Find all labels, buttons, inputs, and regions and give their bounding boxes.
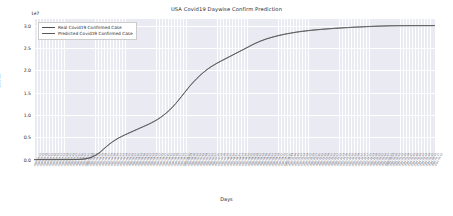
legend-label: Real Covid19 Confirmed Case	[58, 25, 122, 30]
y-tick-label: 1.5	[3, 90, 31, 95]
y-axis-tick-labels: 0.00.51.01.52.02.53.0	[0, 19, 31, 165]
y-tick-label: 2.0	[3, 68, 31, 73]
legend-label: Predicted Covid19 Confirmed Case	[58, 31, 133, 36]
y-tick-label: 3.0	[3, 23, 31, 28]
series-lines	[34, 19, 435, 165]
chart-figure: USA Covid19 Daywise Confirm Prediction 1…	[0, 0, 453, 216]
y-tick-label: 0.0	[3, 157, 31, 162]
chart-title: USA Covid19 Daywise Confirm Prediction	[0, 6, 453, 12]
y-tick-label: 2.5	[3, 46, 31, 51]
legend-color-swatch	[42, 33, 55, 34]
y-axis-offset-label: 1e7	[31, 11, 39, 16]
y-tick-label: 0.5	[3, 135, 31, 140]
chart-legend: Real Covid19 Confirmed CasePredicted Cov…	[38, 22, 137, 41]
series-line	[34, 26, 435, 160]
legend-color-swatch	[42, 27, 55, 28]
y-tick-label: 1.0	[3, 112, 31, 117]
series-line	[34, 26, 435, 160]
plot-area	[34, 19, 435, 165]
x-axis-tick-labels: 2020-01-222020-01-252020-01-282020-01-31…	[34, 166, 435, 194]
y-axis-title: Cases	[0, 74, 1, 89]
legend-entry[interactable]: Predicted Covid19 Confirmed Case	[42, 31, 133, 37]
x-axis-title: Days	[0, 196, 453, 202]
